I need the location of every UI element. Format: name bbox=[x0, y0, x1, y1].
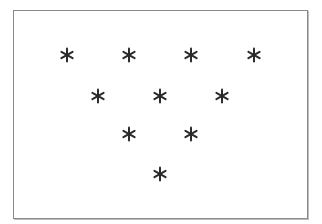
asterisk-icon bbox=[246, 47, 262, 63]
asterisk-icon bbox=[90, 88, 106, 104]
asterisk-icon bbox=[59, 47, 75, 63]
asterisk-icon bbox=[152, 88, 168, 104]
asterisk-icon bbox=[183, 47, 199, 63]
asterisk-icon bbox=[214, 88, 230, 104]
asterisk-icon bbox=[152, 166, 168, 182]
asterisk-icon bbox=[121, 126, 137, 142]
asterisk-icon bbox=[183, 126, 199, 142]
diagram-frame bbox=[13, 10, 308, 219]
asterisk-icon bbox=[121, 47, 137, 63]
